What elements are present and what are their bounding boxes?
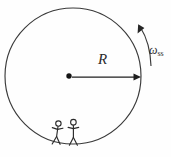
rotation-arrow-shaft [141,28,152,67]
figure-canvas [0,0,171,157]
stick-figure-right [68,119,79,145]
stick-figure-right-arm-left [68,127,73,128]
physics-figure: R ωss [0,0,171,157]
radius-arrow-head [134,73,142,80]
stick-figure-left-arm-right [58,128,63,129]
stick-figure-right-arm-right [73,127,78,128]
stick-figure-left-leg-left [52,137,56,145]
station-circle [5,8,141,144]
stick-figure-left [52,121,63,144]
stick-figure-left-head [56,121,61,126]
stick-figure-right-head [71,119,77,125]
center-dot [66,73,71,78]
stick-figure-left-torso [57,127,58,137]
stick-figure-left-leg-right [57,137,61,145]
stick-figure-left-arm-left [52,128,57,130]
